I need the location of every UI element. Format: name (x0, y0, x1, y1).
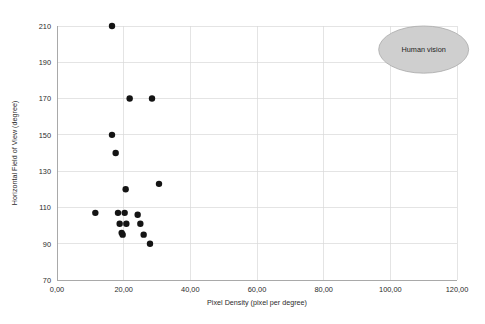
data-point (109, 132, 115, 138)
data-point (92, 210, 98, 216)
y-tick-label-2: 110 (39, 203, 51, 212)
y-tick-label-6: 190 (39, 58, 51, 67)
human-vision-label: Human vision (402, 45, 446, 54)
x-axis-title: Pixel Density (pixel per degree) (207, 298, 307, 307)
data-point (140, 231, 146, 237)
data-point (149, 95, 155, 101)
data-point (126, 95, 132, 101)
data-point (156, 181, 162, 187)
x-tick-label-5: 100,00 (379, 285, 402, 294)
y-tick-label-3: 130 (39, 167, 51, 176)
x-tick-label-6: 120,00 (446, 285, 469, 294)
y-tick-label-0: 70 (43, 276, 51, 285)
data-point (147, 241, 153, 247)
x-tick-label-1: 20,00 (114, 285, 133, 294)
data-point (122, 186, 128, 192)
annotations-layer: Human vision (379, 26, 469, 73)
data-point (119, 231, 125, 237)
chart-canvas: 0,0020,0040,0060,0080,00100,00120,00 709… (0, 0, 485, 324)
data-point (116, 221, 122, 227)
data-point (121, 210, 127, 216)
x-tick-label-3: 60,00 (248, 285, 267, 294)
data-point (112, 150, 118, 156)
x-tick-label-4: 80,00 (314, 285, 333, 294)
data-point (109, 23, 115, 29)
scatter-plot-figure: 0,0020,0040,0060,0080,00100,00120,00 709… (0, 0, 485, 324)
data-point (123, 221, 129, 227)
x-tick-label-0: 0,00 (50, 285, 64, 294)
y-tick-label-1: 90 (43, 240, 51, 249)
x-tick-label-2: 40,00 (181, 285, 200, 294)
y-tick-label-5: 170 (39, 94, 51, 103)
y-tick-label-4: 150 (39, 131, 51, 140)
data-point (134, 211, 140, 217)
data-point (115, 210, 121, 216)
data-point (137, 221, 143, 227)
y-axis-title: Horizontal Field of View (degree) (10, 101, 19, 206)
y-tick-label-7: 210 (39, 22, 51, 31)
